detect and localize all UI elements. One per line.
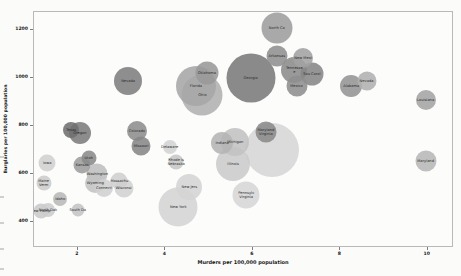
bubble-point[interactable] bbox=[53, 192, 67, 206]
x-tick-label: 6 bbox=[250, 251, 253, 256]
bubble-point[interactable] bbox=[41, 203, 55, 217]
bubble-point[interactable] bbox=[36, 175, 51, 190]
edge-mark bbox=[0, 196, 4, 198]
y-axis-label: Burglaries per 100,000 population bbox=[3, 85, 8, 174]
bubble-point[interactable] bbox=[39, 154, 56, 171]
bubble-point[interactable] bbox=[255, 121, 276, 142]
bubble-point[interactable] bbox=[169, 155, 184, 170]
y-tick-label: 800 bbox=[10, 122, 28, 127]
x-tick-label: 2 bbox=[75, 251, 78, 256]
bubble-point[interactable] bbox=[63, 122, 79, 138]
bubble-point[interactable] bbox=[163, 140, 177, 154]
bubble-point[interactable] bbox=[357, 72, 376, 91]
bubble-point[interactable] bbox=[132, 137, 151, 156]
bubble-point[interactable] bbox=[81, 151, 96, 166]
bubble-point[interactable] bbox=[286, 76, 307, 97]
y-tick-label: 1200 bbox=[10, 26, 28, 31]
bubble-point[interactable] bbox=[416, 90, 436, 110]
bubble-point[interactable] bbox=[176, 174, 202, 200]
bubble-point[interactable] bbox=[114, 67, 142, 95]
x-tick-mark bbox=[164, 247, 165, 250]
y-tick-label: 600 bbox=[10, 170, 28, 175]
x-axis-label: Murders per 100,000 population bbox=[197, 259, 288, 265]
edge-mark bbox=[0, 222, 4, 224]
bubble-point[interactable] bbox=[415, 150, 436, 171]
x-tick-label: 8 bbox=[338, 251, 341, 256]
x-tick-mark bbox=[77, 247, 78, 250]
bubble-point[interactable] bbox=[211, 132, 233, 154]
bubble-point[interactable] bbox=[71, 203, 84, 216]
bubble-point[interactable] bbox=[195, 61, 218, 84]
bubble-point[interactable] bbox=[266, 46, 287, 67]
y-tick-label: 400 bbox=[10, 218, 28, 223]
bubble-chart-figure: Burglaries per 100,000 population 400600… bbox=[0, 0, 461, 276]
bubble-point[interactable] bbox=[293, 48, 313, 68]
x-tick-mark bbox=[252, 247, 253, 250]
edge-mark bbox=[0, 268, 4, 270]
edge-mark bbox=[0, 248, 4, 250]
bubble-point[interactable] bbox=[111, 173, 128, 190]
bubble-point[interactable] bbox=[261, 13, 292, 44]
x-tick-label: 4 bbox=[163, 251, 166, 256]
x-tick-mark bbox=[427, 247, 428, 250]
plot-area: GeorgiaOhioFloridaNew YorkIllinoisNorth … bbox=[33, 11, 453, 247]
bubble-layer: GeorgiaOhioFloridaNew YorkIllinoisNorth … bbox=[34, 12, 452, 246]
y-tick-label: 1000 bbox=[10, 74, 28, 79]
x-tick-label: 10 bbox=[424, 251, 430, 256]
x-tick-mark bbox=[339, 247, 340, 250]
bubble-point[interactable] bbox=[233, 181, 260, 208]
